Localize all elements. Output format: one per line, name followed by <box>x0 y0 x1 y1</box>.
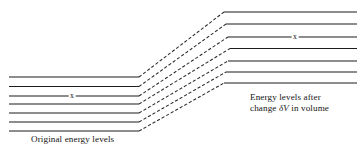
left-level-cross-marker: x <box>69 92 76 100</box>
right-level-cross-marker: x <box>292 33 299 41</box>
original-energy-levels-group <box>9 77 139 131</box>
delta-v-symbol: δV <box>279 103 289 113</box>
shifted-levels-caption-line2-prefix: change <box>250 103 279 113</box>
shifted-levels-caption-line2-suffix: in volume <box>289 103 329 113</box>
level-connector-5 <box>139 72 226 122</box>
shifted-levels-caption-line1: Energy levels after <box>250 92 321 102</box>
original-levels-caption: Original energy levels <box>31 134 114 145</box>
energy-levels-figure: x x Original energy levels Energy levels… <box>0 0 364 155</box>
level-connector-0 <box>139 12 224 77</box>
level-connector-1 <box>139 24 226 87</box>
shifted-levels-caption: Energy levels afterchange δV in volume <box>250 92 329 114</box>
energy-levels-diagram <box>0 0 364 155</box>
level-connector-6 <box>139 83 224 131</box>
shifted-energy-levels-group <box>224 12 357 83</box>
level-connectors-group <box>139 12 230 131</box>
